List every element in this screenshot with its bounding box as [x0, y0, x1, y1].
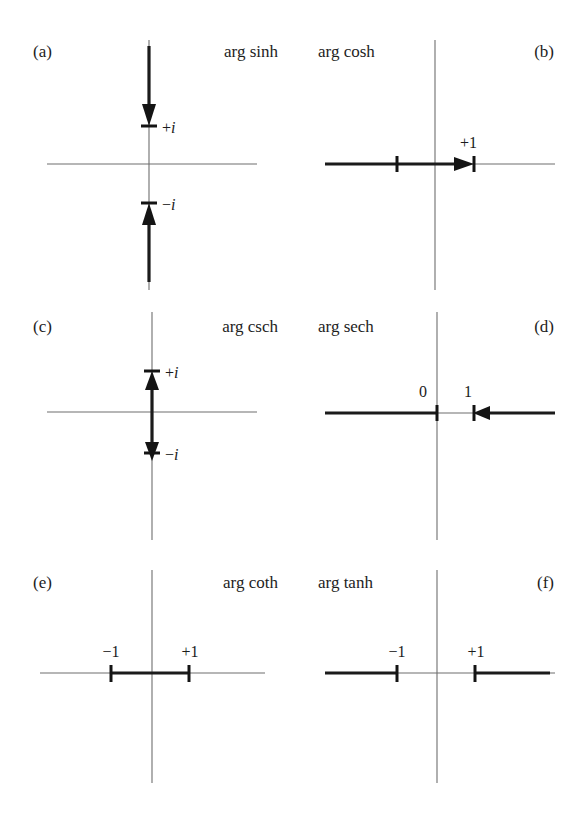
panel-tag-d: (d): [534, 317, 554, 336]
panel-name-b: arg cosh: [318, 42, 375, 61]
label-one-d: 1: [464, 383, 472, 400]
panel-tag-c: (c): [33, 317, 52, 336]
panel-tag-b: (b): [534, 42, 554, 61]
label-plus-i-c: +i: [165, 364, 178, 381]
panel-name-e: arg coth: [223, 573, 278, 592]
label-plus-1-e: +1: [181, 643, 198, 660]
arrow-up-c: [145, 371, 159, 390]
panel-tag-e: (e): [33, 573, 52, 592]
panel-d-arg-sech: arg sech (d) 0 1: [292, 290, 585, 570]
panel-name-a: arg sinh: [224, 42, 278, 61]
label-plus-i-a: +i: [162, 119, 175, 136]
label-minus-1-f: −1: [388, 643, 405, 660]
panel-name-f: arg tanh: [318, 573, 373, 592]
panel-name-c: arg csch: [222, 317, 278, 336]
arrow-up-a: [142, 203, 156, 225]
panel-c-arg-csch: (c) arg csch +i −i: [0, 290, 292, 570]
label-plus-1-f: +1: [467, 643, 484, 660]
label-zero-d: 0: [419, 383, 427, 400]
label-minus-i-c: −i: [165, 446, 178, 463]
panel-tag-f: (f): [537, 573, 554, 592]
branch-cut-figure: (a) arg sinh +i −i arg cosh (b) +1 (c) a…: [0, 0, 585, 826]
arrow-left-d: [473, 406, 490, 420]
arrow-down-a: [142, 104, 156, 126]
panel-name-d: arg sech: [318, 317, 374, 336]
label-plus-1-b: +1: [460, 134, 477, 151]
label-minus-i-a: −i: [162, 196, 175, 213]
arrow-right-b: [454, 157, 474, 171]
panel-b-arg-cosh: arg cosh (b) +1: [292, 0, 585, 290]
panel-a-arg-sinh: (a) arg sinh +i −i: [0, 0, 292, 290]
panel-tag-a: (a): [33, 42, 52, 61]
panel-f-arg-tanh: arg tanh (f) −1 +1: [292, 570, 585, 826]
panel-e-arg-coth: (e) arg coth −1 +1: [0, 570, 292, 826]
label-minus-1-e: −1: [102, 643, 119, 660]
